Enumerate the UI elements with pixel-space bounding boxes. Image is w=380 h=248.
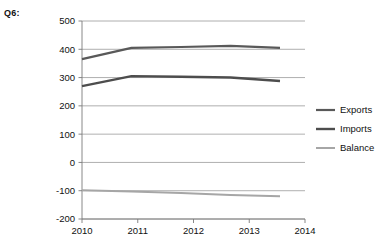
x-tick-label: 2014 bbox=[294, 225, 315, 236]
y-tick-label: 100 bbox=[59, 129, 75, 140]
x-tick-label: 2010 bbox=[71, 225, 92, 236]
y-tick-label: 400 bbox=[59, 44, 75, 55]
y-tick-label: -200 bbox=[56, 213, 75, 224]
y-tick-label: 200 bbox=[59, 100, 75, 111]
x-axis-tick-labels: 20102011201220132014 bbox=[71, 225, 315, 236]
series-line-exports bbox=[82, 46, 280, 59]
x-axis bbox=[82, 219, 305, 223]
x-tick-label: 2013 bbox=[239, 225, 260, 236]
line-chart: 5004003002001000-100-200 201020112012201… bbox=[0, 0, 380, 248]
y-axis-tick-labels: 5004003002001000-100-200 bbox=[56, 15, 75, 224]
y-tick-label: 300 bbox=[59, 72, 75, 83]
legend-label-exports: Exports bbox=[340, 104, 372, 115]
x-tick-label: 2012 bbox=[183, 225, 204, 236]
legend-label-balance: Balance bbox=[340, 142, 374, 153]
y-tick-label: 500 bbox=[59, 15, 75, 26]
y-tick-label: 0 bbox=[70, 157, 75, 168]
legend-label-imports: Imports bbox=[340, 123, 372, 134]
series-lines-group bbox=[82, 46, 280, 196]
x-tick-label: 2011 bbox=[128, 225, 148, 236]
chart-figure: Q6: 5004003002001000-100-200 20102011201… bbox=[0, 0, 380, 248]
chart-legend: ExportsImportsBalance bbox=[316, 104, 374, 153]
y-tick-label: -100 bbox=[56, 185, 75, 196]
y-axis bbox=[79, 21, 83, 219]
